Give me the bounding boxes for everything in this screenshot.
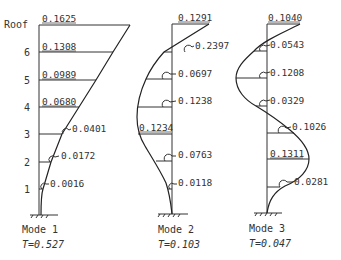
mode-2-value-4: 0.1238 — [178, 95, 213, 106]
mode-3-value-3: 0.1026 — [292, 121, 327, 132]
mode-1-value-2: 0.0172 — [61, 150, 95, 161]
mode-3-value-1: 0.0281 — [294, 176, 329, 187]
mode-1-value-5: 0.0989 — [42, 69, 77, 80]
story-label-4: 4 — [24, 102, 30, 113]
story-label-2: 2 — [24, 157, 30, 168]
mode-1-title: Mode 1 — [22, 224, 58, 235]
story-label-3: 3 — [24, 129, 30, 140]
mode-1-diagram: Roof 6 5 4 3 2 1 0.1625 0.1308 0.0989 0.… — [4, 13, 130, 250]
mode-2-value-1: 0.0118 — [178, 177, 213, 188]
mode-1-value-1: 0.0016 — [50, 178, 85, 189]
mode-3-period: T=0.047 — [249, 238, 291, 249]
mode-1-value-roof: 0.1625 — [42, 13, 76, 24]
mode-3-value-roof: 0.1040 — [268, 12, 303, 23]
mode-1-value-6: 0.1308 — [42, 41, 77, 52]
mode-2-diagram: 0.1291 0.2397 0.0697 0.1238 0.1234 0.076… — [137, 12, 229, 250]
story-label-5: 5 — [24, 75, 30, 86]
mode-1-value-3: 0.0401 — [72, 123, 107, 134]
mode-3-value-6: 0.0543 — [270, 39, 304, 50]
mode-2-value-3: 0.1234 — [139, 122, 174, 133]
mode-2-period: T=0.103 — [158, 239, 200, 250]
mode-3-value-5: 0.1208 — [270, 67, 305, 78]
mode-2-value-5: 0.0697 — [178, 68, 212, 79]
story-label-6: 6 — [24, 47, 30, 58]
mode-2-title: Mode 2 — [158, 224, 194, 235]
mode-2-value-6: 0.2397 — [195, 40, 229, 51]
mode-1-period: T=0.527 — [22, 239, 64, 250]
mode-2-value-2: 0.0763 — [178, 149, 212, 160]
mode-3-value-2: 0.1311 — [270, 148, 305, 159]
story-label-roof: Roof — [4, 19, 28, 30]
story-label-1: 1 — [24, 184, 30, 195]
mode-1-value-4: 0.0680 — [42, 96, 77, 107]
mode-shapes-diagram: Roof 6 5 4 3 2 1 0.1625 0.1308 0.0989 0.… — [0, 0, 341, 260]
mode-3-diagram: 0.1040 0.0543 0.1208 0.0329 0.1026 0.131… — [236, 12, 329, 249]
mode-3-value-4: 0.0329 — [270, 95, 305, 106]
mode-2-value-roof: 0.1291 — [178, 12, 213, 23]
mode-3-title: Mode 3 — [249, 223, 285, 234]
